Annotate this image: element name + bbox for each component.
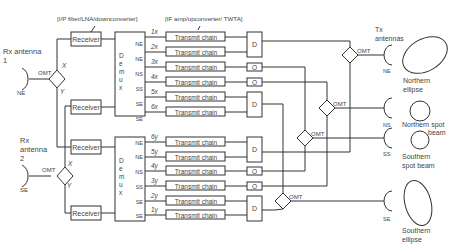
coverage-label: beam	[428, 129, 446, 136]
demux-label: u	[119, 181, 123, 188]
northern-ellipse-coverage	[396, 29, 454, 81]
circulator-label: O	[252, 79, 257, 86]
coverage-label: Northern	[403, 77, 430, 84]
omt-label: OMT	[333, 101, 347, 107]
transmit-chain-label: Transmit chain	[175, 79, 218, 86]
diplexer-label: D	[252, 101, 257, 108]
circulator-label: O	[252, 64, 257, 71]
demux-label: u	[119, 76, 123, 83]
coverage-label: Southern	[402, 153, 431, 160]
demux-port: SE	[136, 101, 144, 107]
transmit-chain-label: Transmit chain	[175, 109, 218, 116]
receiver-chain-annotation: [I/P filter/LNA/downconverter]	[57, 15, 138, 22]
omt-diamond-icon	[49, 70, 65, 88]
northern-spot-beam-coverage	[410, 101, 430, 121]
rx-antenna-1-dish-icon	[22, 68, 28, 90]
rx-antenna-1-label: 1	[3, 56, 7, 65]
polarization-x: X	[61, 62, 67, 69]
demux-port: NS	[135, 169, 143, 175]
receiver-label: Receiver	[72, 210, 100, 217]
demux-label: m	[119, 68, 124, 75]
wire	[65, 185, 71, 213]
demux-port: NS	[135, 71, 143, 77]
demux-port: SS	[136, 184, 144, 190]
coverage-label: Northern spot	[402, 121, 444, 129]
rx-antenna-1-beam: NE	[17, 90, 25, 96]
transponder-block-diagram: [I/P filter/LNA/downconverter] [IF amp/u…	[0, 0, 461, 250]
receiver-label: Receiver	[72, 104, 100, 111]
transmit-chain-label: Transmit chain	[175, 64, 218, 71]
southern-ellipse-coverage	[399, 177, 436, 228]
channel-label: 2x	[150, 43, 159, 50]
rx-antenna-2-label: 2	[20, 154, 24, 163]
coverage-label: ellipse	[402, 236, 422, 244]
rx-antenna-2-label: antenna	[20, 145, 48, 154]
diplexer-label: D	[252, 41, 257, 48]
transmit-chain-label: Transmit chain	[175, 183, 218, 190]
tx-antenna-ss-dish-icon	[384, 128, 392, 148]
channel-label: 5y	[151, 148, 159, 156]
rx-antenna-2-label: Rx	[20, 136, 29, 145]
tx-antenna-ne-dish-icon	[384, 45, 392, 65]
demux-label: D	[119, 157, 124, 164]
transmit-chain-label: Transmit chain	[175, 198, 218, 205]
channel-label: 5x	[151, 88, 159, 95]
omt-label: OMT	[42, 167, 56, 173]
transmit-chain-annotation: [IF amp/upconverter/ TWTA]	[165, 15, 243, 22]
annotation-pointer	[198, 26, 200, 30]
channel-label: 4y	[151, 162, 159, 170]
tx-antenna-beam: SS	[383, 151, 391, 157]
diplexer-label: D	[252, 146, 257, 153]
channel-label: 2y	[150, 192, 159, 200]
omt-label: OMT	[357, 48, 371, 54]
top-channel-group: 1x 2x 3x 4x 5x 6x Transmit chain Transmi…	[145, 28, 262, 117]
channel-label: 3y	[151, 177, 159, 185]
demux-label: m	[119, 173, 124, 180]
demux-label: D	[119, 52, 124, 59]
tx-antenna-beam: SE	[383, 216, 391, 222]
polarization-x: X	[67, 160, 73, 167]
transmit-chain-label: Transmit chain	[175, 168, 218, 175]
polarization-y: Y	[60, 88, 65, 95]
transmit-chain-label: Transmit chain	[175, 139, 218, 146]
tx-antennas-title: antennas	[375, 35, 404, 42]
channel-label: 4x	[151, 73, 159, 80]
demux-port: SE	[136, 199, 144, 205]
wire	[262, 104, 283, 193]
circulator-label: O	[252, 168, 257, 175]
coverage-label: Southern	[402, 227, 431, 234]
coverage-label: spot beam	[402, 162, 435, 170]
channel-label: 6x	[151, 103, 159, 110]
tx-antenna-se-dish-icon	[384, 191, 392, 211]
wire	[57, 88, 71, 147]
tx-antenna-beam: NS	[383, 122, 391, 128]
omt-label: OMT	[38, 70, 52, 76]
diplexer-label: D	[252, 205, 257, 212]
coverage-label: ellipse	[403, 86, 423, 94]
rx-antenna-2-dish-icon	[22, 165, 28, 187]
wire	[262, 41, 350, 47]
omt-label: OMT	[289, 194, 303, 200]
receiver-label: Receiver	[72, 36, 100, 43]
demux-port: NE	[135, 154, 143, 160]
demux-port: SE	[136, 213, 144, 219]
wire	[262, 82, 327, 100]
southern-spot-beam-coverage	[411, 131, 429, 149]
demux-port: SS	[136, 86, 144, 92]
receiver-label: Receiver	[72, 144, 100, 151]
wire	[275, 209, 283, 210]
bottom-channel-group: 6y 5y 4y 3y 2y 1y Transmit chain Transmi…	[145, 133, 262, 221]
channel-label: 1y	[151, 206, 159, 214]
tx-antenna-beam: NE	[383, 68, 391, 74]
tx-antenna-ns-dish-icon	[384, 98, 392, 118]
transmit-chain-label: Transmit chain	[175, 94, 218, 101]
omt-label: OMT	[311, 131, 325, 137]
annotation-pointer	[91, 26, 95, 32]
tx-antennas-title: Tx	[375, 26, 383, 33]
transmit-chain-label: Transmit chain	[175, 212, 218, 219]
transmit-chain-label: Transmit chain	[175, 34, 218, 41]
demux-port: NE	[135, 140, 143, 146]
rx-antenna-1-label: Rx antenna	[3, 47, 42, 56]
demux-port: NE	[135, 56, 143, 62]
channel-label: 3x	[151, 58, 159, 65]
